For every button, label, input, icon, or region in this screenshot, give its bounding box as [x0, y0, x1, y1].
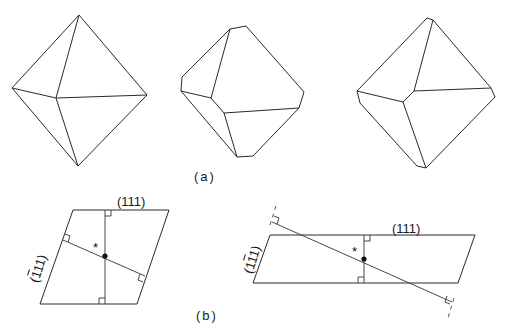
caption-a: (a)	[194, 170, 216, 183]
center-dot	[361, 256, 366, 261]
crystal-diagram	[0, 0, 505, 330]
caption-b: (b)	[196, 309, 218, 322]
octahedron-1	[12, 15, 147, 166]
octahedron-3	[357, 18, 495, 168]
left-star-marker: *	[93, 241, 98, 254]
center-dot	[102, 253, 107, 258]
right-parallelogram	[253, 206, 475, 318]
left-parallelogram	[40, 210, 169, 304]
right-star-marker: *	[352, 245, 357, 258]
right-top-plane-label: (111)	[392, 222, 420, 235]
left-top-plane-label: (111)	[117, 195, 145, 208]
octahedron-2	[181, 26, 304, 157]
